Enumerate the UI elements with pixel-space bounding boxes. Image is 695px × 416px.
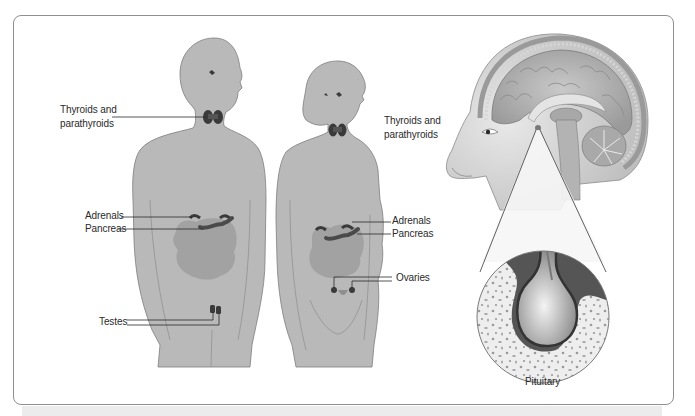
label-female-pancreas: Pancreas [392,228,433,240]
label-male-adrenals: Adrenals [85,210,124,222]
label-pituitary: Pituitary [525,376,560,388]
female-figure [276,61,392,367]
label-female-thyroid-line2: parathyroids [384,129,438,141]
endocrine-diagram [0,0,695,416]
label-male-thyroid-line2: parathyroids [60,118,114,130]
pituitary-inset [477,243,611,384]
label-female-ovaries: Ovaries [396,272,430,284]
label-male-pancreas: Pancreas [85,223,126,235]
label-male-thyroid-line1: Thyroids and [60,104,117,116]
female-body-silhouette [276,61,383,367]
label-male-testes: Testes [99,316,127,328]
male-figure [112,38,266,367]
label-female-thyroid-line1: Thyroids and [384,115,441,127]
male-body-silhouette [133,38,266,367]
label-female-adrenals: Adrenals [392,215,431,227]
